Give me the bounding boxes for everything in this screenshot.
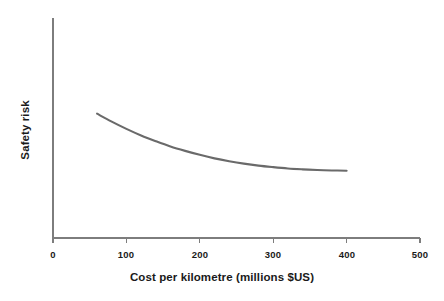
x-tick-label-400: 400 [327,249,367,260]
axes-group [53,18,420,238]
y-axis-title: Safety risk [19,100,31,159]
x-tick-label-500: 500 [400,249,440,260]
y-axis-title-wrap: Safety risk [12,60,38,200]
safety-risk-curve [97,114,347,171]
data-series-group [97,114,347,171]
x-tick-label-200: 200 [180,249,220,260]
x-tick-label-100: 100 [106,249,146,260]
chart-figure: 0 100 200 300 400 500 Cost per kilometre… [0,0,444,301]
x-tick-label-300: 300 [253,249,293,260]
x-axis-title: Cost per kilometre (millions $US) [0,271,444,283]
x-tick-label-0: 0 [33,249,73,260]
